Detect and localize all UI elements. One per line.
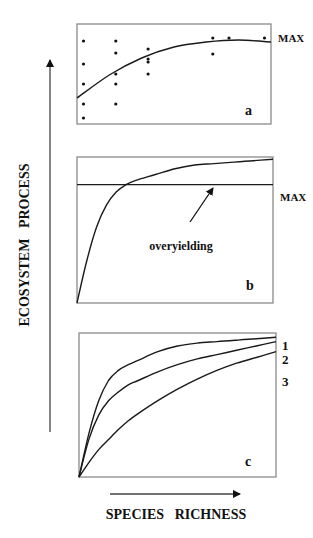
overyielding-arrow — [190, 188, 213, 222]
figure: ECOSYSTEM PROCESS SPECIES RICHNESS MAX a… — [0, 0, 313, 538]
panel-c-label: c — [245, 454, 251, 469]
data-point — [114, 72, 117, 75]
data-point — [263, 36, 266, 39]
data-point — [211, 52, 214, 55]
data-point — [227, 36, 230, 39]
overyielding-label: overyielding — [149, 239, 212, 253]
curve-3-label: 3 — [282, 374, 289, 389]
panel-c: 1 2 3 c — [79, 333, 289, 477]
data-point — [114, 82, 117, 85]
panel-b-max-label: MAX — [280, 191, 306, 203]
panel-a-max-label: MAX — [278, 32, 304, 44]
data-point — [147, 57, 150, 60]
panel-a-points — [82, 36, 266, 119]
data-point — [147, 72, 150, 75]
curve-2-label: 2 — [282, 352, 289, 367]
data-point — [82, 82, 85, 85]
panel-b-frame — [77, 157, 273, 303]
data-point — [82, 39, 85, 42]
curve-1-label: 1 — [282, 338, 289, 353]
panel-b: overyielding MAX b — [77, 157, 306, 303]
data-point — [82, 116, 85, 119]
x-axis-label: SPECIES RICHNESS — [106, 507, 247, 522]
panel-a-label: a — [245, 103, 252, 118]
data-point — [114, 39, 117, 42]
data-point — [114, 51, 117, 54]
panel-a-fit-curve — [77, 40, 271, 98]
panel-b-label: b — [246, 278, 254, 293]
data-point — [147, 47, 150, 50]
panel-a: MAX a — [77, 24, 304, 124]
data-point — [211, 36, 214, 39]
data-point — [82, 62, 85, 65]
data-point — [147, 60, 150, 63]
data-point — [114, 102, 117, 105]
data-point — [82, 102, 85, 105]
y-axis-label: ECOSYSTEM PROCESS — [17, 163, 32, 326]
panel-a-frame — [77, 24, 271, 124]
panel-b-curve — [77, 159, 273, 303]
